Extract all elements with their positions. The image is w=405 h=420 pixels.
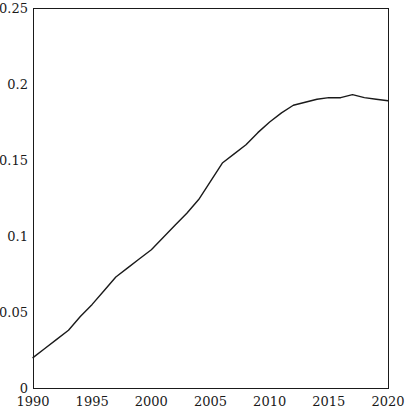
plot-frame <box>34 9 389 389</box>
x-tick-label-4: 2010 <box>253 395 286 408</box>
y-tick-label-3: 0.15 <box>0 154 28 167</box>
y-tick-label-4: 0.2 <box>7 78 28 91</box>
y-tick-label-1: 0.05 <box>0 306 28 319</box>
x-tick-label-3: 2005 <box>194 395 227 408</box>
data-series-line <box>33 95 388 358</box>
x-tick-label-2: 2000 <box>135 395 168 408</box>
x-tick-label-1: 1995 <box>76 395 109 408</box>
x-tick-label-6: 2020 <box>371 395 404 408</box>
y-tick-label-5: 0.25 <box>0 2 28 15</box>
x-tick-label-5: 2015 <box>312 395 345 408</box>
y-tick-label-0: 0 <box>20 382 28 395</box>
y-tick-label-2: 0.1 <box>7 230 28 243</box>
x-tick-label-0: 1990 <box>16 395 49 408</box>
